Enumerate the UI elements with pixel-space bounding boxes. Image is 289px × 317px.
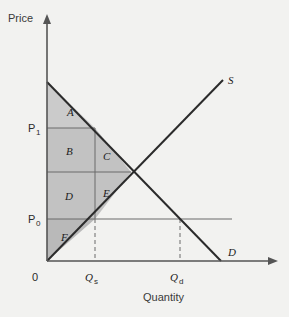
p1-tick-label: P <box>28 122 35 134</box>
qs-tick-subscript: s <box>94 277 98 286</box>
region-label-d: D <box>64 190 73 202</box>
x-axis-title: Quantity <box>143 291 184 303</box>
y-axis-title: Price <box>8 12 33 24</box>
demand-curve-label: D <box>227 246 236 258</box>
qd-tick-label: Q <box>170 271 178 283</box>
price-tick-labels: P 1 P 0 <box>28 122 41 228</box>
origin-label: 0 <box>32 271 38 283</box>
p1-tick-subscript: 1 <box>36 128 41 137</box>
qd-tick-subscript: d <box>179 277 183 286</box>
dashed-drop-lines <box>95 219 180 261</box>
region-label-a: A <box>66 106 74 118</box>
p0-tick-label: P <box>28 213 35 225</box>
region-label-f: F <box>60 231 68 243</box>
region-label-e: E <box>102 187 110 199</box>
diagram-canvas: Price Quantity 0 P 1 P 0 Q s Q d A B C D… <box>0 0 289 317</box>
y-axis-arrowhead <box>43 14 51 24</box>
qs-tick-label: Q <box>85 271 93 283</box>
region-label-b: B <box>66 145 73 157</box>
region-label-c: C <box>103 150 111 162</box>
supply-demand-diagram: Price Quantity 0 P 1 P 0 Q s Q d A B C D… <box>0 0 289 317</box>
supply-curve-label: S <box>228 74 234 86</box>
p0-tick-subscript: 0 <box>36 219 41 228</box>
quantity-tick-labels: Q s Q d <box>85 271 183 286</box>
x-axis-arrowhead <box>268 257 278 265</box>
curve-labels: S D <box>227 74 236 258</box>
